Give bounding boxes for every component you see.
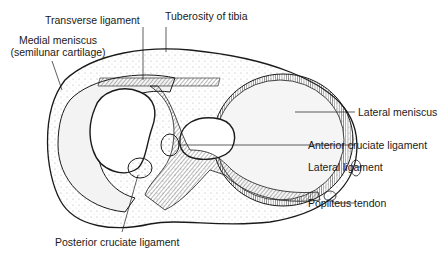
transverse-ligament-band: [98, 78, 220, 86]
label-lateral-ligament: Lateral ligament: [308, 161, 383, 173]
label-anterior-cruciate-ligament: Anterior cruciate ligament: [308, 139, 427, 151]
label-medial-meniscus-line2: (semilunar cartilage): [8, 46, 108, 58]
knee-anatomy-diagram: Transverse ligament Tuberosity of tibia …: [0, 0, 445, 257]
leader-medial-meniscus: [52, 61, 62, 90]
anterior-cruciate-attachment: [161, 134, 179, 156]
label-transverse-ligament: Transverse ligament: [45, 14, 140, 26]
posterior-cruciate-attachment: [128, 158, 152, 178]
label-medial-meniscus-line1: Medial meniscus: [8, 34, 108, 46]
label-medial-meniscus: Medial meniscus (semilunar cartilage): [8, 34, 108, 58]
label-tuberosity-of-tibia: Tuberosity of tibia: [165, 10, 247, 22]
label-popliteus-tendon: Popliteus tendon: [308, 197, 386, 209]
label-posterior-cruciate-ligament: Posterior cruciate ligament: [55, 236, 179, 248]
label-lateral-meniscus: Lateral meniscus: [358, 106, 437, 118]
